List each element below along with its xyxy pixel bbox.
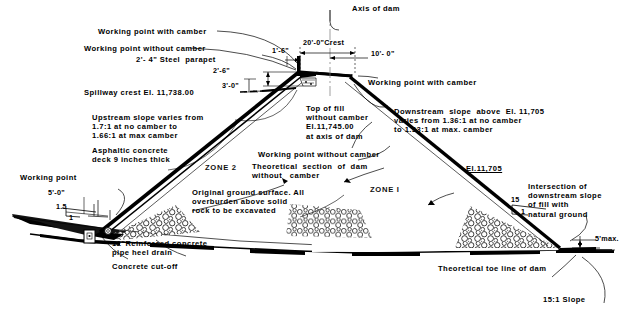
label-asphaltic-concrete: Asphaltic concrete deck 9 inches thick (92, 146, 170, 164)
label-working-point-with-camber-top: Working point with camber (98, 27, 207, 36)
label-15-1-slope: 15:1 Slope (543, 295, 585, 304)
label-top-of-fill: Top of fill without camber El.11,745.00 … (306, 104, 368, 141)
label-upstream-slope: Upstream slope varies from 1.7:1 at no c… (92, 113, 204, 141)
dim-10ft: 10'- 0" (371, 49, 395, 58)
dim-5ft-max: 5'max. (595, 234, 619, 243)
label-spillway-crest: Spillway crest El. 11,738.00 (84, 88, 194, 97)
dim-crest-width: 20'-0"Crest (303, 38, 344, 47)
label-concrete-cutoff: Concrete cut-off (112, 262, 178, 271)
label-theoretical-section: Theoretical section of dam without cambe… (252, 162, 368, 180)
drawing-canvas: Working point with camber Working point … (0, 0, 643, 321)
label-working-point-with-camber-right: Working point with camber (368, 78, 477, 87)
label-zone-2: ZONE 2 (205, 163, 237, 172)
label-downstream-slope: Downstream slope above El. 11,705 varies… (394, 107, 544, 135)
label-theoretical-toe: Theoretical toe line of dam (438, 264, 546, 273)
label-steel-parapet: 2'- 4" Steel parapet (136, 55, 216, 64)
dim-left-slope-run: 1 (69, 213, 73, 222)
label-working-point-without-camber-top: Working point without camber (84, 44, 206, 53)
label-el-11705: El.11,705 (466, 164, 502, 173)
dim-3ft-0in: 3'-0" (222, 81, 239, 90)
dim-right-slope-run: 1 (521, 207, 525, 216)
label-working-point-without-camber-mid: Working point without camber (258, 150, 380, 159)
dim-1ft-6in: 1'-6" (272, 46, 289, 55)
dim-left-slope-rise: 1.5 (56, 202, 67, 211)
dim-2ft-6in: 2'-6" (213, 66, 230, 75)
dim-5ft-0in: 5'-0" (48, 188, 65, 197)
label-original-ground: Original ground surface. All overburden … (192, 188, 304, 216)
dim-right-slope-rise: 15 (511, 195, 520, 204)
label-axis-of-dam: Axis of dam (352, 4, 400, 13)
label-pipe-heel-drain: 12"Reinforced concrete pipe heel drain (112, 239, 207, 257)
label-working-point-left: Working point (20, 173, 77, 182)
label-zone-1: ZONE I (370, 185, 400, 194)
label-intersection-note: Intersection of downstream slope of fill… (528, 182, 602, 219)
